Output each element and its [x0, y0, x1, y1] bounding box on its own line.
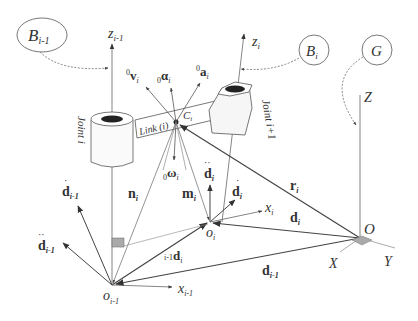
svg-text:i-1di: i-1di [164, 248, 182, 265]
svg-text:0ai: 0ai [196, 64, 209, 81]
kinematics-diagram: Bi-1 Bi G zi-1 zi Z Link (i) Joint i J [0, 0, 418, 321]
svg-text:di: di [204, 166, 215, 183]
svg-text:di-1: di-1 [38, 238, 55, 255]
svg-text:di: di [290, 210, 301, 227]
svg-text:Bi: Bi [306, 43, 318, 61]
joint-next-hex: Joint i+1 [209, 82, 279, 140]
svg-text:Bi-1: Bi-1 [28, 26, 50, 46]
d-prev-vector [116, 238, 360, 284]
frame-g: G [342, 35, 392, 125]
svg-text:di: di [232, 184, 243, 201]
svg-text:di-1: di-1 [62, 184, 79, 201]
svg-text:xi-1: xi-1 [177, 281, 193, 298]
svg-text:ri: ri [290, 178, 299, 195]
svg-text:Z: Z [364, 90, 372, 105]
svg-text:G: G [371, 43, 382, 59]
r-vector [180, 125, 360, 238]
svg-text:··: ·· [204, 157, 211, 168]
d-i-vector [213, 223, 360, 238]
frame-b-prev: Bi-1 [17, 18, 108, 69]
svg-text:·: · [236, 175, 239, 186]
svg-text:0vi: 0vi [126, 68, 139, 85]
x-prev-axis [112, 285, 172, 287]
svg-text:mi: mi [182, 186, 197, 203]
svg-text:Joint i+1: Joint i+1 [260, 98, 279, 140]
svg-text:0ωi: 0ωi [163, 165, 179, 182]
svg-text:oi: oi [206, 225, 215, 242]
svg-text:zi-1: zi-1 [107, 26, 123, 43]
svg-text:·: · [64, 175, 67, 186]
svg-text:oi-1: oi-1 [103, 288, 119, 306]
svg-text:ni: ni [128, 186, 139, 203]
x-i-axis [210, 211, 262, 222]
svg-text:X: X [328, 256, 338, 271]
svg-text:··: ·· [38, 229, 45, 240]
svg-text:di-1: di-1 [262, 263, 279, 280]
joint-i-cylinder: Joint i [76, 112, 133, 167]
svg-text:xi: xi [264, 200, 273, 217]
svg-text:Y: Y [384, 254, 394, 269]
svg-text:0αi: 0αi [157, 68, 171, 85]
d-dot-prev-vector [78, 206, 112, 285]
diagram-canvas: Bi-1 Bi G zi-1 zi Z Link (i) Joint i J [0, 0, 418, 321]
svg-text:O: O [364, 221, 375, 237]
d-ddot-prev-vector [63, 243, 112, 285]
svg-text:Joint i: Joint i [76, 116, 88, 144]
right-angle-marker [112, 238, 124, 247]
svg-text:zi: zi [251, 34, 260, 51]
